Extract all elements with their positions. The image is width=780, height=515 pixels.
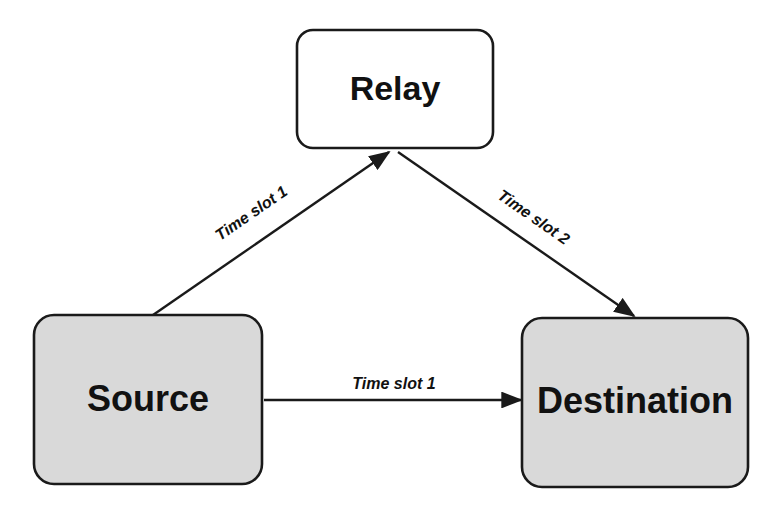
edge-source-to-relay: Time slot 1 [153, 152, 389, 315]
node-source[interactable]: Source [34, 315, 262, 484]
edge-source-to-relay-line [153, 152, 389, 315]
node-relay-label: Relay [350, 69, 441, 107]
edge-relay-to-destination-label: Time slot 2 [495, 186, 573, 248]
edge-relay-to-destination-line [398, 152, 634, 316]
edge-source-to-destination-label: Time slot 1 [352, 375, 435, 392]
edge-source-to-destination: Time slot 1 [264, 375, 521, 400]
node-destination[interactable]: Destination [522, 318, 748, 487]
diagram-svg-canvas: Time slot 1 Time slot 2 Time slot 1 Rela… [0, 0, 780, 515]
relay-network-diagram: Time slot 1 Time slot 2 Time slot 1 Rela… [0, 0, 780, 515]
node-relay[interactable]: Relay [297, 30, 493, 148]
node-destination-label: Destination [537, 380, 733, 421]
node-source-label: Source [87, 378, 209, 419]
edge-relay-to-destination: Time slot 2 [398, 152, 634, 316]
edge-source-to-relay-label: Time slot 1 [212, 182, 290, 243]
